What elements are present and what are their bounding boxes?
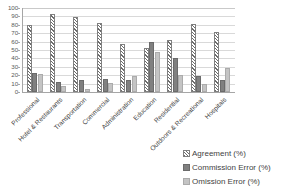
- bar[interactable]: [50, 14, 55, 92]
- bar[interactable]: [225, 68, 230, 92]
- y-tick-mark: [18, 25, 20, 26]
- bar[interactable]: [32, 73, 37, 92]
- y-tick-label: 40: [11, 55, 18, 61]
- y-tick-label: 10: [11, 80, 18, 86]
- legend-item[interactable]: Omission Error (%): [183, 174, 296, 188]
- y-tick-mark: [18, 33, 20, 34]
- bar-group: [93, 8, 116, 92]
- bar[interactable]: [202, 84, 207, 92]
- chart-legend: Agreement (%)Commission Error (%)Omissio…: [183, 146, 296, 188]
- legend-label: Commission Error (%): [192, 163, 271, 172]
- bar[interactable]: [132, 76, 137, 92]
- legend-swatch-icon: [183, 164, 190, 171]
- bar-group: [164, 8, 187, 92]
- y-tick-label: 80: [11, 22, 18, 28]
- legend-label: Agreement (%): [192, 149, 246, 158]
- bar[interactable]: [220, 80, 225, 92]
- y-tick-label: 30: [11, 64, 18, 70]
- bar[interactable]: [61, 86, 66, 92]
- legend-item[interactable]: Commission Error (%): [183, 160, 296, 174]
- y-tick-mark: [18, 84, 20, 85]
- bar[interactable]: [56, 82, 61, 92]
- bar-group: [70, 8, 93, 92]
- bar[interactable]: [144, 48, 149, 92]
- bar-chart: 0102030405060708090100 ProfessionalHotel…: [0, 0, 296, 196]
- y-tick-label: 100: [8, 5, 18, 11]
- bar[interactable]: [173, 58, 178, 92]
- bar-group: [211, 8, 234, 92]
- y-tick-mark: [18, 92, 20, 93]
- y-tick-label: 60: [11, 38, 18, 44]
- bar[interactable]: [167, 40, 172, 92]
- bar-group: [117, 8, 140, 92]
- bar[interactable]: [79, 80, 84, 92]
- y-tick-mark: [18, 50, 20, 51]
- y-tick-mark: [18, 8, 20, 9]
- legend-swatch-icon: [183, 178, 190, 185]
- bar[interactable]: [155, 52, 160, 92]
- bar-group: [140, 8, 163, 92]
- bar-group: [23, 8, 46, 92]
- bar[interactable]: [85, 89, 90, 92]
- legend-swatch-icon: [183, 150, 190, 157]
- y-axis: 0102030405060708090100: [0, 8, 20, 92]
- bar[interactable]: [120, 44, 125, 92]
- bars-layer: [23, 8, 234, 92]
- bar[interactable]: [108, 83, 113, 92]
- y-tick-label: 70: [11, 30, 18, 36]
- bar-group: [46, 8, 69, 92]
- bar[interactable]: [103, 79, 108, 92]
- bar[interactable]: [178, 75, 183, 92]
- bar[interactable]: [126, 80, 131, 92]
- y-tick-mark: [18, 16, 20, 17]
- y-tick-mark: [18, 75, 20, 76]
- bar-group: [187, 8, 210, 92]
- y-tick-label: 20: [11, 72, 18, 78]
- bar[interactable]: [214, 32, 219, 92]
- y-tick-mark: [18, 42, 20, 43]
- bar[interactable]: [27, 25, 32, 92]
- bar[interactable]: [97, 23, 102, 92]
- bar[interactable]: [38, 74, 43, 92]
- y-tick-mark: [18, 58, 20, 59]
- legend-item[interactable]: Agreement (%): [183, 146, 296, 160]
- y-tick-label: 90: [11, 13, 18, 19]
- bar[interactable]: [149, 42, 154, 92]
- legend-label: Omission Error (%): [192, 177, 260, 186]
- y-tick-mark: [18, 67, 20, 68]
- bar[interactable]: [196, 76, 201, 92]
- bar[interactable]: [191, 24, 196, 92]
- y-tick-label: 50: [11, 47, 18, 53]
- bar[interactable]: [73, 17, 78, 92]
